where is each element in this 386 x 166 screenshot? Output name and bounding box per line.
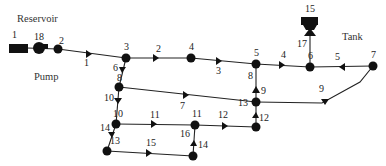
arrow-up-icon	[252, 112, 259, 118]
pipe-network-diagram: Reservoir Pump Tank 1 18 2 3 4 5 6 7 8 1…	[0, 0, 386, 166]
arrow-right-icon	[153, 54, 159, 62]
tank-label: Tank	[342, 31, 364, 42]
node-3	[122, 54, 131, 63]
node-label: 7	[371, 49, 376, 60]
node-label: 8	[117, 72, 122, 83]
arrow-down-icon	[114, 98, 122, 104]
arrow-right-icon	[183, 91, 189, 99]
node-label: 1	[12, 29, 17, 40]
link-label: 11	[150, 109, 160, 120]
node-7	[369, 62, 378, 71]
link-labels: 1 2 3 4 5 6 7 8 9 9 10 11 12 14 15 16 14…	[84, 38, 340, 150]
link-label: 17	[297, 38, 307, 49]
pipe-1	[58, 49, 126, 58]
node-10	[112, 120, 121, 129]
node-8	[115, 83, 124, 92]
arrow-up-icon	[252, 86, 260, 93]
link-label: 3	[216, 65, 221, 76]
reservoir-icon	[9, 44, 28, 53]
node-label: 4	[189, 41, 194, 52]
link-label: 8	[248, 70, 253, 81]
arrow-right-icon	[216, 57, 222, 65]
node-5	[252, 60, 261, 69]
link-label: 14	[198, 139, 208, 150]
node-label: 13	[110, 135, 120, 146]
link-label: 15	[146, 137, 156, 148]
arrow-right-icon	[222, 122, 228, 130]
link-label: 14	[100, 122, 110, 133]
tank-base-icon	[303, 25, 317, 30]
node-label: 3	[124, 41, 129, 52]
arrow-left-icon	[339, 63, 345, 71]
node-label: 15	[305, 3, 315, 14]
node-label: 2	[59, 35, 64, 46]
link-label: 2	[156, 43, 161, 54]
node-label: 13	[238, 97, 248, 108]
pump-label: Pump	[34, 71, 59, 82]
node-13	[252, 98, 261, 107]
link-label: 9	[261, 85, 266, 96]
arrow-right-icon	[151, 120, 157, 128]
link-label: 5	[335, 51, 340, 62]
pipe-3	[191, 58, 256, 64]
link-label: 10	[104, 92, 114, 103]
node-label: 11	[192, 108, 202, 119]
node-11	[191, 121, 200, 130]
arrow-right-icon	[146, 149, 152, 157]
node-label: 6	[308, 50, 313, 61]
link-label: 6	[113, 62, 118, 73]
node-label: 10	[113, 108, 123, 119]
reservoir-label: Reservoir	[17, 13, 58, 24]
arrow-right-icon	[279, 61, 285, 69]
node-6	[306, 63, 315, 72]
link-label: 9	[319, 83, 324, 94]
arrow-up-icon	[190, 140, 197, 146]
link-label: 4	[281, 49, 286, 60]
node-label: 12	[259, 112, 269, 123]
node-label: 5	[254, 47, 259, 58]
link-label: 12	[218, 109, 228, 120]
link-label: 7	[180, 100, 185, 111]
node-13b	[103, 147, 112, 156]
node-label: 18	[34, 31, 44, 42]
arrow-down-icon	[321, 99, 329, 105]
link-label: 1	[84, 57, 89, 68]
node-12	[252, 123, 261, 132]
pump-outlet	[39, 44, 48, 49]
node-4	[187, 54, 196, 63]
pipe-9	[256, 66, 373, 103]
tank-icon	[301, 17, 318, 25]
junction-nodes	[54, 45, 378, 161]
link-label: 16	[180, 128, 190, 139]
node-14	[189, 152, 198, 161]
